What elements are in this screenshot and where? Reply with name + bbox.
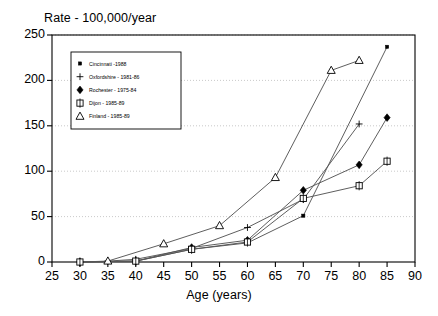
y-tick-label: 150 (11, 118, 45, 132)
y-tick-label: 100 (11, 163, 45, 177)
x-tick-label: 65 (260, 269, 290, 283)
x-tick-label: 50 (177, 269, 207, 283)
x-tick-label: 55 (205, 269, 235, 283)
x-tick-label: 60 (232, 269, 262, 283)
legend-label: Dijon - 1985-89 (89, 100, 125, 106)
legend-label: Oxfordshire - 1981-86 (89, 74, 140, 80)
x-tick-label: 45 (149, 269, 179, 283)
line-chart: Rate - 100,000/year Age (years) Cincinna… (0, 0, 438, 316)
legend-label: Finland - 1985-89 (89, 113, 130, 119)
y-tick-label: 50 (11, 209, 45, 223)
x-tick-label: 85 (372, 269, 402, 283)
x-tick-label: 80 (344, 269, 374, 283)
y-tick-label: 200 (11, 72, 45, 86)
y-tick-label: 0 (11, 254, 45, 268)
marker-triangle (271, 173, 279, 180)
marker-triangle (216, 221, 224, 228)
series-line (80, 124, 359, 262)
marker-triangle (355, 56, 363, 63)
x-tick-label: 75 (316, 269, 346, 283)
x-tick-label: 70 (288, 269, 318, 283)
series-3 (77, 157, 390, 267)
x-tick-label: 30 (65, 269, 95, 283)
marker-square (302, 214, 305, 217)
x-tick-label: 25 (37, 269, 67, 283)
x-tick-label: 40 (121, 269, 151, 283)
x-tick-label: 90 (400, 269, 430, 283)
series-line (80, 161, 387, 262)
y-tick-label: 250 (11, 27, 45, 41)
marker-diamond (356, 161, 362, 169)
legend-label: Cincinnati -1988 (89, 61, 127, 67)
legend-label: Rochester - 1975-84 (89, 87, 136, 93)
marker-diamond (384, 114, 390, 122)
legend: Cincinnati -1988Oxfordshire - 1981-86Roc… (71, 52, 181, 129)
x-tick-label: 35 (93, 269, 123, 283)
marker-square (78, 62, 81, 65)
marker-square (385, 45, 388, 48)
marker-diamond (300, 186, 306, 194)
